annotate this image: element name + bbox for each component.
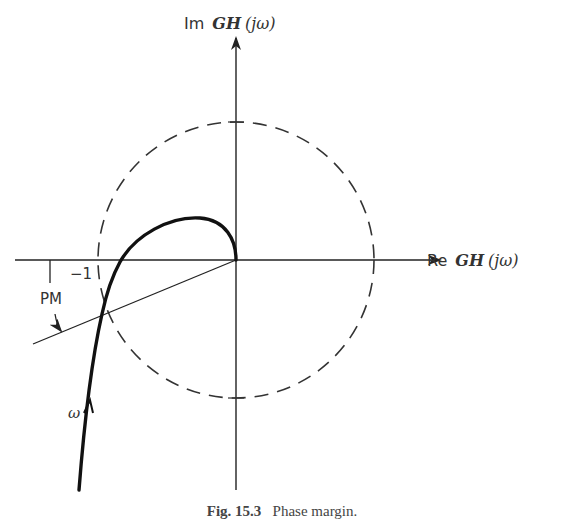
pm-arc-arrow — [55, 314, 61, 331]
figure-caption: Fig. 15.3 Phase margin. — [0, 503, 564, 519]
imag-axis-label: Im GH (jω) — [184, 14, 276, 33]
omega-label: ω — [68, 404, 80, 422]
caption-label: Fig. 15.3 — [207, 503, 262, 519]
nyquist-curve — [79, 218, 236, 490]
phase-margin-line — [33, 260, 236, 344]
phase-margin-label: PM — [40, 290, 62, 308]
caption-text: Phase margin. — [273, 503, 358, 519]
nyquist-phase-margin-diagram: Im GH (jω) Re GH (jω) −1 PM ω — [0, 0, 564, 519]
minus-one-label: −1 — [70, 265, 92, 283]
real-axis-label: Re GH (jω) — [427, 251, 519, 270]
